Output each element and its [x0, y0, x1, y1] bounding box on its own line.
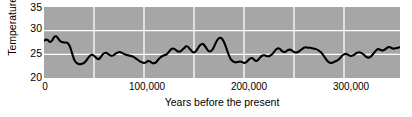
y-tick-30: 30: [24, 23, 42, 33]
temperature-line: [44, 36, 400, 64]
y-axis-tick-labels: 35 30 25 20: [20, 0, 42, 117]
chart-svg: [44, 7, 400, 78]
x-axis-label: Years before the present: [44, 96, 400, 108]
gridlines: [44, 7, 400, 78]
temperature-time-series-chart: Temperature °C 35 30 25 20 0 100,000 200…: [0, 0, 412, 117]
plot-area: [44, 7, 400, 78]
x-tick-300000: 300,000: [316, 81, 386, 92]
x-tick-0: 0: [10, 81, 80, 92]
y-tick-35: 35: [24, 2, 42, 12]
x-tick-100000: 100,000: [112, 81, 182, 92]
x-tick-200000: 200,000: [214, 81, 284, 92]
y-tick-25: 25: [24, 48, 42, 58]
